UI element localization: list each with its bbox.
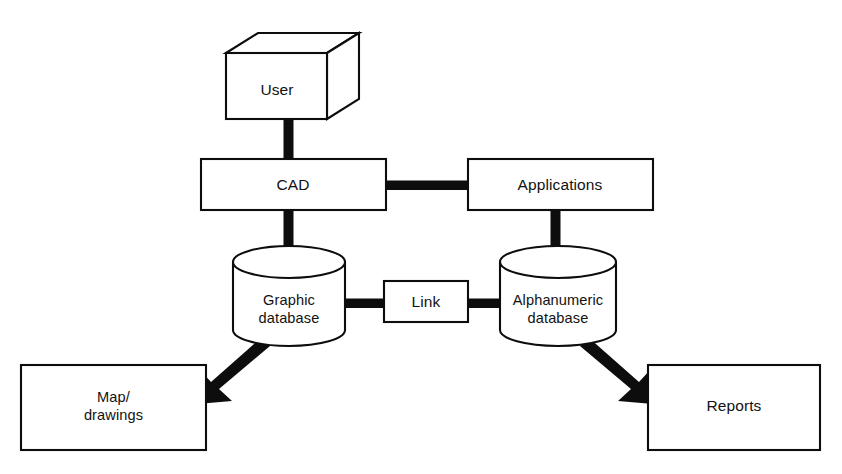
alphanumeric-database-cylinder-top xyxy=(500,246,616,278)
connector-user-to-cad xyxy=(284,118,294,161)
node-label-link: Link xyxy=(412,293,441,310)
node-label-alphanumeric-database-line1: Alphanumeric xyxy=(513,292,603,308)
node-user[interactable]: User xyxy=(226,33,359,119)
graphic-database-cylinder-top xyxy=(233,246,345,278)
connector-graphic-database-to-map-drawings xyxy=(197,337,270,404)
node-graphic-database[interactable]: Graphic database xyxy=(233,246,345,346)
node-label-user: User xyxy=(260,81,293,98)
node-label-graphic-database-line2: database xyxy=(259,310,320,326)
node-label-applications: Applications xyxy=(518,176,603,193)
connector-alphanumeric-database-to-reports xyxy=(580,337,653,404)
node-label-reports: Reports xyxy=(707,397,762,414)
node-label-cad: CAD xyxy=(276,176,309,193)
node-label-graphic-database-line1: Graphic xyxy=(263,292,315,308)
node-map-drawings[interactable]: Map/ drawings xyxy=(21,365,206,450)
node-cad[interactable]: CAD xyxy=(201,159,386,210)
node-reports[interactable]: Reports xyxy=(648,365,820,450)
node-alphanumeric-database[interactable]: Alphanumeric database xyxy=(500,246,616,346)
node-link[interactable]: Link xyxy=(384,281,468,322)
diagram-canvas: User CAD Applications Graphic database A… xyxy=(0,0,842,474)
node-label-map-drawings-line1: Map/ xyxy=(97,389,131,405)
node-applications[interactable]: Applications xyxy=(468,159,653,210)
architecture-diagram: User CAD Applications Graphic database A… xyxy=(0,0,842,474)
connector-cad-to-applications xyxy=(383,181,471,191)
node-label-alphanumeric-database-line2: database xyxy=(528,310,589,326)
node-label-map-drawings-line2: drawings xyxy=(84,407,143,423)
